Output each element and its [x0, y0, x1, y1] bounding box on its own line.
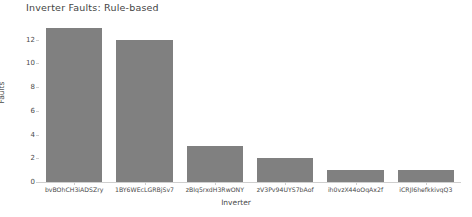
- bar: [187, 146, 243, 182]
- y-tick-label: 2: [31, 154, 35, 162]
- x-tick-mark: [426, 182, 427, 185]
- bar: [257, 158, 313, 182]
- y-tick-label: 4: [31, 131, 35, 139]
- bar: [327, 170, 383, 182]
- x-tick-label: zBIq5rxdH3RwONY: [186, 186, 244, 193]
- x-tick-label: bvBOhCH3iADSZry: [45, 186, 104, 193]
- chart-figure: Inverter Faults: Rule-based Faults 02468…: [0, 0, 472, 217]
- y-tick-label: 6: [31, 107, 35, 115]
- plot-area: [39, 20, 461, 182]
- x-tick-label: zV3Pv94UYS7bAof: [257, 186, 314, 193]
- y-tick-label: 8: [31, 83, 35, 91]
- x-tick-label: 1BY6WEcLGRBjSv7: [115, 186, 174, 193]
- x-axis-title: Inverter: [0, 198, 472, 207]
- bar: [46, 28, 102, 182]
- x-tick-label: ih0vzX44oOqAx2f: [328, 186, 383, 193]
- y-tick-label: 0: [31, 178, 35, 186]
- x-tick-mark: [215, 182, 216, 185]
- y-tick-label: 12: [26, 36, 35, 44]
- x-tick-mark: [145, 182, 146, 185]
- bar: [116, 40, 172, 182]
- x-tick-mark: [74, 182, 75, 185]
- x-tick-label: iCRJl6hefkkivqQ3: [399, 186, 452, 193]
- bar: [398, 170, 454, 182]
- x-tick-mark: [285, 182, 286, 185]
- y-axis-ticks: 024681012: [0, 0, 35, 217]
- chart-title: Inverter Faults: Rule-based: [26, 2, 159, 13]
- y-tick-label: 10: [26, 59, 35, 67]
- bars-layer: [39, 20, 461, 182]
- x-tick-mark: [356, 182, 357, 185]
